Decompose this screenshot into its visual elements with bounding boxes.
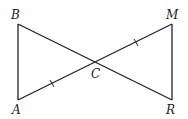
label-b: B	[10, 8, 20, 22]
label-r: R	[165, 103, 175, 117]
geometry-diagram: B M A R C	[0, 0, 188, 119]
label-a: A	[11, 103, 21, 117]
label-c: C	[91, 67, 100, 81]
label-m: M	[165, 8, 179, 22]
